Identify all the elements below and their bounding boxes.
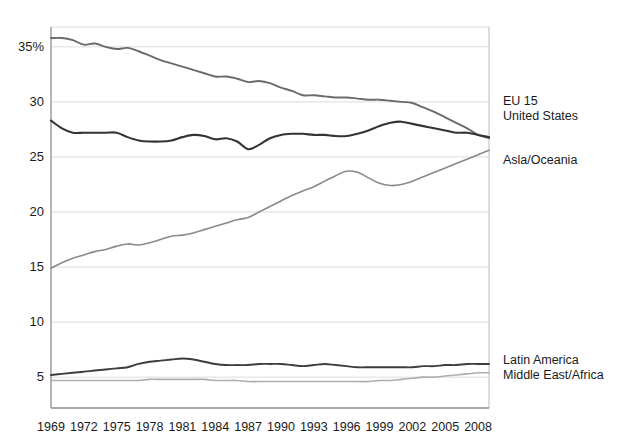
legend-label-united-states: United States bbox=[503, 109, 578, 124]
legend-label-eu-15: EU 15 bbox=[503, 94, 538, 109]
x-tick-label-2008: 2008 bbox=[456, 421, 500, 434]
y-tick-label-10: 10 bbox=[8, 315, 44, 328]
y-tick-label-15: 15 bbox=[8, 260, 44, 273]
series-line-asla-oceania bbox=[51, 150, 489, 268]
y-tick-label-5: 5 bbox=[8, 370, 44, 383]
legend-label-middle-east-africa: Middle East/Africa bbox=[503, 368, 604, 383]
series-line-latin-america bbox=[51, 358, 489, 375]
chart-container: 5101520253035% 1969197219751978198119841… bbox=[0, 0, 623, 442]
y-tick-label-35: 35% bbox=[8, 40, 44, 53]
series-line-eu-15 bbox=[51, 38, 489, 138]
y-tick-label-25: 25 bbox=[8, 150, 44, 163]
gridlines-group bbox=[51, 47, 489, 377]
series-line-united-states bbox=[51, 121, 489, 150]
legend-label-asla-oceania: Asla/Oceania bbox=[503, 153, 577, 168]
y-tick-label-20: 20 bbox=[8, 205, 44, 218]
series-group bbox=[51, 38, 489, 382]
legend-label-latin-america: Latin America bbox=[503, 353, 579, 368]
y-tick-label-30: 30 bbox=[8, 95, 44, 108]
